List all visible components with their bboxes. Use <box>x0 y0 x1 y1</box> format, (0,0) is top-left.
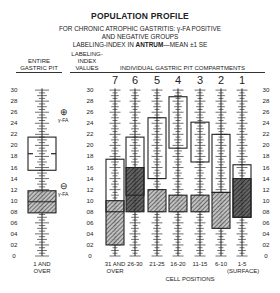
positive-gfa-label: γ-FA <box>58 117 68 123</box>
x-axis-title: CELL POSITIONS <box>160 276 220 283</box>
negative-gfa-label: γ-FA <box>58 191 68 197</box>
x-label-1: 1-5(SURFACE) <box>227 261 257 275</box>
positive-symbol: ⊕ <box>60 107 68 117</box>
negative-symbol: ⊖ <box>60 181 68 191</box>
plot-area <box>0 0 280 293</box>
x-label-entire: 1 AND OVER <box>25 261 59 275</box>
